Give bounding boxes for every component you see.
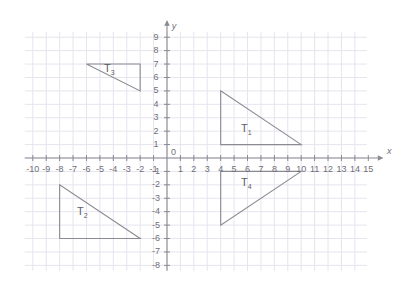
y-axis-name: y (172, 22, 177, 31)
x-axis-label-4: 4 (218, 165, 223, 174)
x-axis-label--5: -5 (96, 165, 104, 174)
y-axis-arrowhead (164, 20, 170, 26)
y-axis-label--4: -4 (152, 207, 160, 216)
x-axis-label-13: 13 (337, 165, 347, 174)
y-axis-label--7: -7 (152, 247, 160, 256)
shape-label-t4: T4 (241, 177, 252, 190)
grid-and-shapes-svg (0, 0, 401, 284)
x-axis-label-0: 0 (171, 148, 176, 157)
x-axis-label-7: 7 (258, 165, 263, 174)
y-axis-label--8: -8 (152, 261, 160, 270)
x-axis-label--9: -9 (42, 165, 50, 174)
x-axis-label-3: 3 (205, 165, 210, 174)
x-axis-label-15: 15 (363, 165, 373, 174)
y-axis-label--2: -2 (152, 180, 160, 189)
y-axis-label-6: 6 (154, 73, 159, 82)
x-axis-label--8: -8 (56, 165, 64, 174)
axes (25, 20, 384, 271)
coordinate-plane-figure: -10-9-8-7-6-5-4-3-2-10123456789101112131… (0, 0, 401, 284)
x-axis-label-9: 9 (285, 165, 290, 174)
x-axis-label--4: -4 (109, 165, 117, 174)
shape-label-t1: T1 (241, 123, 252, 136)
x-axis-label-6: 6 (245, 165, 250, 174)
x-axis-label-14: 14 (350, 165, 360, 174)
x-axis-name: x (387, 147, 392, 156)
x-axis-label-8: 8 (272, 165, 277, 174)
y-axis-label--6: -6 (152, 234, 160, 243)
y-axis-label-1: 1 (154, 140, 159, 149)
x-axis-label--3: -3 (123, 165, 131, 174)
x-axis-arrowhead (378, 155, 384, 161)
x-axis-label-5: 5 (232, 165, 237, 174)
shape-label-t2: T2 (77, 206, 88, 219)
x-axis-label-1: 1 (178, 165, 183, 174)
y-axis-label-4: 4 (154, 100, 159, 109)
y-axis-label--1: -1 (152, 167, 160, 176)
x-axis-label-11: 11 (310, 165, 319, 174)
shape-label-t3: T3 (104, 63, 115, 76)
y-axis-label-8: 8 (154, 46, 159, 55)
x-axis-label--2: -2 (136, 165, 144, 174)
y-axis-label--5: -5 (152, 221, 160, 230)
x-axis-label-10: 10 (296, 165, 306, 174)
x-axis-label--6: -6 (83, 165, 91, 174)
y-axis-label-7: 7 (154, 60, 159, 69)
gridlines (25, 32, 367, 271)
y-axis-label-3: 3 (154, 113, 159, 122)
y-axis-label-2: 2 (154, 127, 159, 136)
x-axis-label--10: -10 (26, 165, 39, 174)
x-axis-label-12: 12 (323, 165, 333, 174)
y-axis-label--3: -3 (152, 194, 160, 203)
x-axis-label--7: -7 (69, 165, 77, 174)
y-axis-label-5: 5 (154, 86, 159, 95)
y-axis-label-9: 9 (154, 33, 159, 42)
x-axis-label-2: 2 (191, 165, 196, 174)
tick-marks (33, 37, 369, 265)
